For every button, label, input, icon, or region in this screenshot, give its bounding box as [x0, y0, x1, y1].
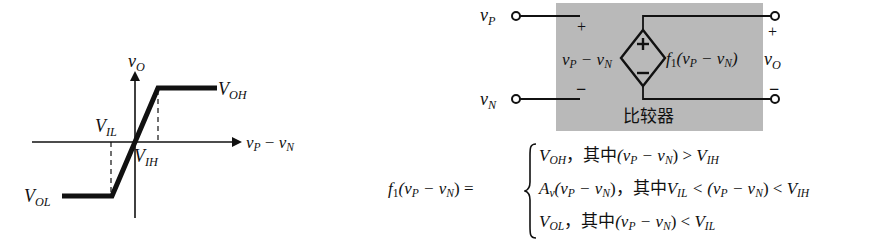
voh-main: V — [218, 79, 229, 99]
case1-cond-d-sub: IH — [707, 154, 719, 167]
x-label-vp-sub: P — [254, 141, 261, 154]
case2-cond-b: − v — [728, 179, 756, 198]
input-plus-sign: + — [577, 19, 586, 35]
case-row-2: Av(vP − vN)，其中VIL < (vP − vN) < VIH — [539, 180, 809, 200]
diff-sub-p: P — [570, 58, 577, 71]
output-voltage-label: vO — [764, 50, 781, 71]
case3-cond-a: (v — [615, 212, 628, 231]
vol-label: VOL — [24, 187, 51, 208]
equation-lhs: f1(vP − vN) = — [388, 180, 474, 200]
case2-cond-lt: < (v — [687, 179, 720, 198]
case3-sep: ， — [564, 211, 581, 231]
input-p-sub: P — [488, 14, 495, 28]
output-plus-sign: + — [768, 24, 777, 40]
x-axis-label: vP − vN — [246, 134, 294, 154]
voh-label: VOH — [218, 80, 247, 101]
func-mid: − v — [697, 49, 725, 68]
func-sub-p: P — [690, 57, 697, 70]
case1-cond-c: ) > — [673, 146, 697, 165]
case2-cond-cn: 其中 — [633, 178, 667, 198]
case3-cond-cn: 其中 — [581, 211, 615, 231]
vih-sub: IH — [145, 155, 158, 169]
y-axis-label-sub: O — [136, 60, 145, 74]
transfer-curve-graph: vO VOH VOL VIL VIH vP − vN — [0, 0, 300, 246]
case2-cond-c: ) < — [763, 179, 787, 198]
case2-value-rest: (v — [555, 179, 568, 198]
output-main: v — [764, 49, 772, 69]
diff-voltage-label: vP − vN — [562, 51, 612, 71]
case1-cond-d: V — [696, 146, 706, 165]
case3-cond-d: V — [694, 212, 704, 231]
case1-value-sub: OH — [549, 154, 566, 167]
comparator-circuit: vP vN + − vP − vN f1(vP − vN) + − vO 比较器 — [460, 0, 887, 140]
case3-value: V — [539, 212, 549, 231]
x-label-minus: − — [261, 133, 279, 152]
input-n-terminal — [512, 95, 520, 103]
transfer-curve-svg — [0, 0, 300, 246]
case3-cond-c: ) < — [671, 212, 695, 231]
case-row-3: VOL，其中(vP − vN) < VIL — [539, 213, 715, 233]
case2-cond-b-sub: N — [755, 187, 763, 200]
func-close: ) — [732, 49, 738, 68]
dependent-source-label: f1(vP − vN) — [666, 50, 738, 70]
output-sub: O — [772, 58, 781, 72]
diff-minus: − v — [577, 50, 605, 69]
vol-main: V — [24, 186, 35, 206]
x-label-vp: v — [246, 133, 254, 152]
case-row-1: VOH，其中(vP − vN) > VIH — [539, 147, 719, 167]
case2-cond-d-sub: IH — [797, 187, 809, 200]
vih-main: V — [134, 146, 145, 166]
diff-sub-n: N — [604, 58, 612, 71]
input-p-label: vP — [480, 6, 495, 27]
lhs-sub-n: N — [446, 187, 454, 200]
case1-sep: ， — [566, 145, 583, 165]
case2-value-rest-sub-n: N — [602, 187, 610, 200]
case1-value: V — [539, 146, 549, 165]
voh-sub: OH — [229, 88, 247, 102]
case2-cond-pre-sub: IL — [677, 187, 687, 200]
input-p-terminal — [512, 12, 520, 20]
case2-sep: ， — [616, 178, 633, 198]
func-sub-n: N — [724, 57, 732, 70]
diff-v: v — [562, 50, 570, 69]
left-brace — [524, 142, 538, 240]
output-minus-sign: − — [769, 80, 779, 98]
case3-cond-b: − v — [635, 212, 663, 231]
vil-sub: IL — [106, 125, 117, 139]
input-minus-sign: − — [576, 80, 586, 98]
x-label-vn-sub: N — [286, 141, 294, 154]
input-n-label: vN — [480, 90, 496, 111]
lhs-sub-p: P — [412, 187, 419, 200]
case3-value-sub: OL — [549, 220, 564, 233]
case3-cond-d-sub: IL — [705, 220, 715, 233]
case3-cond-b-sub: N — [663, 220, 671, 233]
comparator-caption: 比较器 — [623, 108, 674, 125]
input-n-sub: N — [488, 98, 496, 112]
case2-value: A — [539, 179, 549, 198]
vih-label: VIH — [134, 147, 158, 168]
y-axis-label: vO — [128, 52, 145, 73]
case1-cond-b: − v — [637, 146, 665, 165]
func-args: (v — [677, 49, 690, 68]
lhs-close: ) = — [454, 179, 474, 198]
case2-cond-a-sub: P — [721, 187, 728, 200]
case2-cond-pre: V — [667, 179, 677, 198]
input-p-main: v — [480, 5, 488, 25]
vil-label: VIL — [95, 117, 117, 138]
y-axis-label-main: v — [128, 51, 136, 71]
vil-main: V — [95, 116, 106, 136]
piecewise-equation: f1(vP − vN) = VOH，其中(vP − vN) > VIH Av(v… — [388, 138, 887, 246]
output-plus-terminal — [771, 12, 779, 20]
case2-value-rest-mid: − v — [575, 179, 603, 198]
lhs-args: (v — [399, 179, 412, 198]
vol-sub: OL — [35, 195, 51, 209]
case1-cond-cn: 其中 — [583, 145, 617, 165]
case2-value-rest-sub-p: P — [568, 187, 575, 200]
case1-cond-b-sub: N — [665, 154, 673, 167]
case1-cond-a: (v — [617, 146, 630, 165]
input-n-main: v — [480, 89, 488, 109]
case2-cond-d: V — [787, 179, 797, 198]
lhs-mid: − v — [419, 179, 447, 198]
